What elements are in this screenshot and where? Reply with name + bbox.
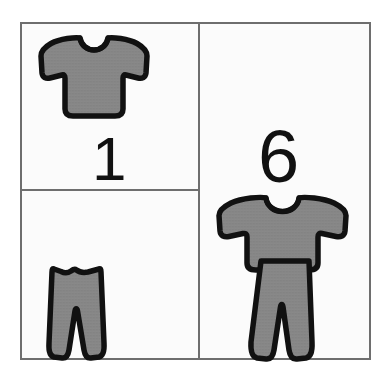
shirt-count-numeral: 1 [92,128,126,190]
card-frame: 1 6 [20,22,371,360]
panel-pants-count[interactable] [22,191,198,358]
pants-icon [247,256,323,366]
outfit-total-numeral: 6 [258,120,299,194]
panel-outfit-total[interactable]: 6 [200,24,369,358]
canvas: 1 6 [0,0,390,379]
panel-shirt-count[interactable]: 1 [22,24,198,189]
pants-icon [42,263,110,363]
tshirt-icon [36,30,151,122]
